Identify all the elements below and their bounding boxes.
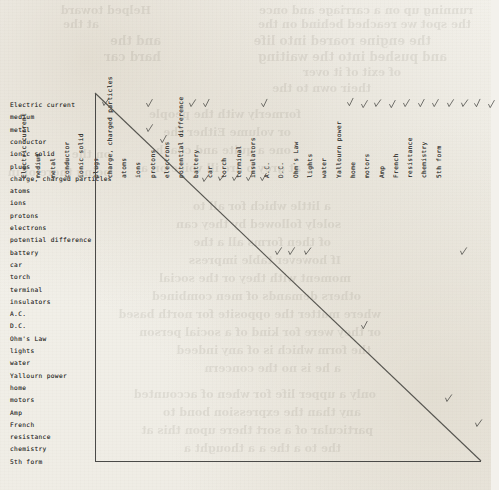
row-label-torch: torch [10, 274, 30, 280]
row-label-a-c: A.C. [10, 311, 26, 317]
row-label-ionic-solid: ionic solid [10, 151, 55, 157]
row-label-terminal: terminal [10, 287, 43, 293]
row-label-potential-difference: potential difference [10, 237, 92, 243]
tick-mark [447, 99, 454, 108]
row-label-electric-current: Electric current [10, 102, 75, 108]
row-label-lights: lights [10, 348, 34, 354]
row-label-insulators: insulators [10, 299, 51, 305]
tick-mark [361, 100, 368, 109]
row-label-chemistry: chemistry [10, 446, 47, 452]
row-label-conductor: conductor [10, 139, 47, 145]
row-label-motors: motors [10, 397, 34, 403]
row-label-french: French [10, 422, 34, 428]
tick-mark [461, 98, 469, 108]
tick-mark [417, 99, 424, 108]
tick-mark [274, 246, 281, 255]
tick-mark [260, 98, 268, 108]
row-label-yallourn-power: Yallourn power [10, 373, 67, 379]
tick-mark [460, 246, 468, 255]
grid-bottom-edge [95, 461, 481, 462]
row-label-protons: protons [10, 213, 39, 219]
row-label-battery: battery [10, 250, 39, 256]
row-label-d-c: D.C. [10, 323, 26, 329]
tick-mark [303, 247, 311, 257]
tick-mark [474, 99, 482, 109]
tick-mark [488, 99, 495, 108]
tick-mark [474, 418, 482, 428]
grid-left-edge [95, 93, 96, 461]
row-label-5th-form: 5th form [10, 459, 43, 465]
tick-mark [347, 98, 355, 107]
tick-mark [374, 98, 382, 108]
tick-mark [202, 99, 210, 108]
tick-mark [189, 99, 197, 108]
row-label-ions: ions [10, 200, 26, 206]
row-label-resistance: resistance [10, 434, 51, 440]
row-label-car: car [10, 262, 22, 268]
tick-mark [403, 99, 410, 108]
row-label-home: home [10, 385, 26, 391]
row-label-water: water [10, 360, 30, 366]
row-label-amp: Amp [10, 410, 22, 416]
tick-mark [445, 393, 453, 403]
tick-mark [146, 124, 153, 133]
tick-mark [361, 321, 368, 330]
row-label-ohm-s-law: Ohm's Law [10, 336, 47, 342]
tick-mark [146, 99, 153, 108]
tick-mark [432, 99, 439, 108]
tick-mark [288, 247, 295, 256]
tick-mark [389, 99, 396, 108]
row-label-electrons: electrons [10, 225, 47, 231]
row-label-atoms: atoms [10, 188, 30, 194]
